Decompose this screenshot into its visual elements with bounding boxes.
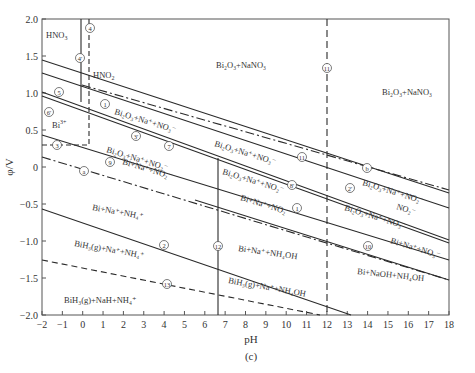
region-bi2o3-nano3-right: Bi₂O₃+NaNO₃ xyxy=(382,87,432,97)
y-tick-label: −1.0 xyxy=(20,236,38,247)
svg-text:10: 10 xyxy=(365,243,372,250)
svg-text:b: b xyxy=(365,165,368,172)
x-tick-label: 7 xyxy=(223,319,228,330)
y-tick-label: 0 xyxy=(33,162,38,173)
circle-label-13: 13 xyxy=(163,280,172,289)
x-tick-label: 5 xyxy=(182,319,187,330)
region-hno3: HNO3 xyxy=(46,30,67,41)
svg-text:2: 2 xyxy=(162,242,165,249)
x-tick-label: 17 xyxy=(424,319,434,330)
circle-label-4: 4' xyxy=(76,54,85,63)
svg-text:2': 2' xyxy=(348,185,352,192)
x-tick-label: 13 xyxy=(342,319,352,330)
x-tick-label: 4 xyxy=(162,319,167,330)
svg-text:1: 1 xyxy=(295,205,298,212)
region-bi-na-nh4: Bi+Na⁺+NH₄⁺ xyxy=(92,202,145,221)
circle-label-b: b xyxy=(363,164,372,173)
circle-label-8p: 8' xyxy=(288,181,297,190)
x-axis xyxy=(42,311,449,315)
x-tick-label: 16 xyxy=(403,319,413,330)
circle-label-12: 12 xyxy=(214,242,223,251)
figure-caption: (c) xyxy=(245,350,258,363)
svg-text:a: a xyxy=(83,168,86,175)
x-tick-label: −2 xyxy=(37,319,48,330)
x-tick-label: 11 xyxy=(302,319,312,330)
svg-text:6': 6' xyxy=(47,109,51,116)
circle-label-10: 10 xyxy=(364,242,373,251)
x-tick-label: 9 xyxy=(263,319,268,330)
region-bi2o3-na-no3-2: Bi₂O₃+Na⁺+NO₃⁻ xyxy=(213,138,277,166)
circle-label-1-upper: 1 xyxy=(101,100,110,109)
region-labels: HNO3 HNO2 Bi₂O₃+NaNO₃ Bi₂O₃+NaNO₃ Bi₂O₃+… xyxy=(46,30,442,305)
x-tick-label: 12 xyxy=(322,319,332,330)
y-tick-label: 1.0 xyxy=(26,88,39,99)
circle-label-4p: 4 xyxy=(86,24,95,33)
circle-label-3: 3 xyxy=(53,141,62,150)
region-bi2o3-na-no3-1: Bi₂O₃+Na⁺+NO₃⁻ xyxy=(113,106,177,134)
y-tick-label: −0.5 xyxy=(20,199,38,210)
svg-text:3': 3' xyxy=(134,133,138,140)
svg-text:9: 9 xyxy=(108,159,111,166)
y-tick-label: −2.0 xyxy=(20,310,38,321)
circle-label-2: 2 xyxy=(160,241,169,250)
pourbaix-diagram: 2.0 1.5 1.0 0.5 0 −0.5 −1.0 −1.5 −2.0 φ/… xyxy=(0,0,475,373)
svg-text:3: 3 xyxy=(55,142,58,149)
circle-label-7: 7 xyxy=(165,142,174,151)
x-tick-label: 15 xyxy=(383,319,393,330)
svg-text:1: 1 xyxy=(103,101,106,108)
x-tick-label: 14 xyxy=(363,319,373,330)
x-tick-label: −1 xyxy=(57,319,68,330)
svg-text:4': 4' xyxy=(78,55,82,62)
x-tick-label: 3 xyxy=(141,319,146,330)
y-axis xyxy=(42,19,46,315)
y-axis-label: φ/V xyxy=(3,158,15,175)
x-tick-label: 2 xyxy=(121,319,126,330)
circle-label-11-vertical: 11 xyxy=(323,64,332,73)
y-tick-label: −1.5 xyxy=(20,273,38,284)
circle-label-6: 6' xyxy=(45,108,54,117)
region-bi-na-nh4oh: Bi+Na⁺+NH₄OH xyxy=(238,243,298,261)
svg-text:11: 11 xyxy=(299,154,305,161)
circle-label-2p: 2' xyxy=(346,184,355,193)
circle-label-3p: 3' xyxy=(132,132,141,141)
x-tick-label: 18 xyxy=(444,319,454,330)
svg-text:12: 12 xyxy=(215,243,222,250)
circle-label-11: 11 xyxy=(298,153,307,162)
x-tick-label: 6 xyxy=(202,319,207,330)
region-bih3-nah-nh4: BiH₃(g)+NaH+NH₄⁺ xyxy=(64,295,136,305)
circle-label-a: a xyxy=(80,167,89,176)
region-bih3-na-nh4: BiH₃(g)+Na⁺+NH₄⁺ xyxy=(74,238,145,260)
region-bi3: Bi3+ xyxy=(52,119,67,130)
x-tick-label: 8 xyxy=(243,319,248,330)
circle-label-9: 9 xyxy=(106,158,115,167)
circle-label-5: 5 xyxy=(55,88,64,97)
x-tick-label: 0 xyxy=(80,319,85,330)
circle-label-1-lower: 1 xyxy=(293,204,302,213)
region-bi2o3-nano3-left: Bi₂O₃+NaNO₃ xyxy=(216,60,266,70)
y-tick-label: 1.5 xyxy=(26,51,39,62)
region-bi-na-no2-2: Bi+Na⁺+NO₂⁻ xyxy=(239,192,291,217)
svg-text:13: 13 xyxy=(164,281,171,288)
x-axis-label: pH xyxy=(244,333,258,345)
x-tick-label: 1 xyxy=(101,319,106,330)
x-tick-label: 10 xyxy=(281,319,291,330)
y-tick-label: 2.0 xyxy=(26,14,39,25)
region-no2: NO₂⁻ xyxy=(395,201,417,216)
y-tick-label: 0.5 xyxy=(26,125,39,136)
svg-text:11: 11 xyxy=(324,65,330,72)
region-hno2: HNO2 xyxy=(93,70,114,81)
region-bi-na-no3: Bi+Na⁺+NO₃⁻ xyxy=(389,235,441,260)
region-bih3-na-nh4oh: BiH₃(g)+Na⁺+NH₄OH xyxy=(228,275,307,298)
svg-text:5: 5 xyxy=(57,89,60,96)
svg-text:8': 8' xyxy=(290,182,294,189)
